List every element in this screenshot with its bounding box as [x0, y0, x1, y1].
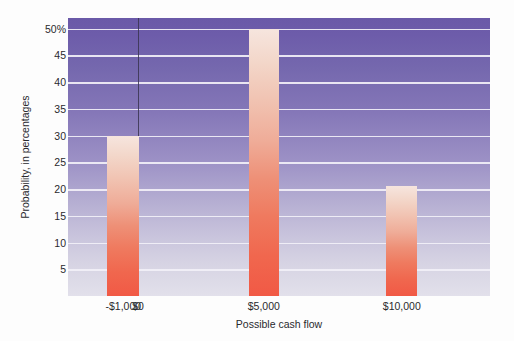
gridline	[68, 82, 490, 84]
y-axis-tick-label: 15	[54, 210, 66, 222]
y-axis-title-label: Probability, in percentages	[19, 96, 31, 219]
x-axis-title-label: Possible cash flow	[68, 318, 490, 330]
plot-area	[68, 18, 490, 296]
x-axis-tick-label: $10,000	[383, 300, 421, 312]
gridline	[68, 29, 490, 31]
y-axis-tick-label: 10	[54, 237, 66, 249]
bar	[249, 29, 279, 296]
y-axis-tick-label: 25	[54, 156, 66, 168]
x-axis-tick-label: $0	[132, 300, 144, 312]
y-axis-tick-label: 45	[54, 49, 66, 61]
y-axis-tick-label: 50%	[45, 23, 66, 35]
y-axis-tick-labels: 5101520253035404550%	[36, 18, 66, 296]
bar	[386, 186, 417, 296]
y-axis-title: Probability, in percentages	[14, 18, 36, 296]
chart-figure: Probability, in percentages 510152025303…	[0, 0, 514, 341]
x-axis-tick-labels: -$1,000$0$5,000$10,000	[68, 300, 490, 316]
gridline	[68, 109, 490, 111]
y-axis-tick-label: 5	[60, 263, 66, 275]
y-axis-tick-label: 30	[54, 130, 66, 142]
y-axis-tick-label: 40	[54, 76, 66, 88]
gridline	[68, 55, 490, 57]
bar	[107, 136, 139, 296]
x-axis-tick-label: $5,000	[248, 300, 280, 312]
y-axis-tick-label: 35	[54, 103, 66, 115]
y-axis-tick-label: 20	[54, 183, 66, 195]
